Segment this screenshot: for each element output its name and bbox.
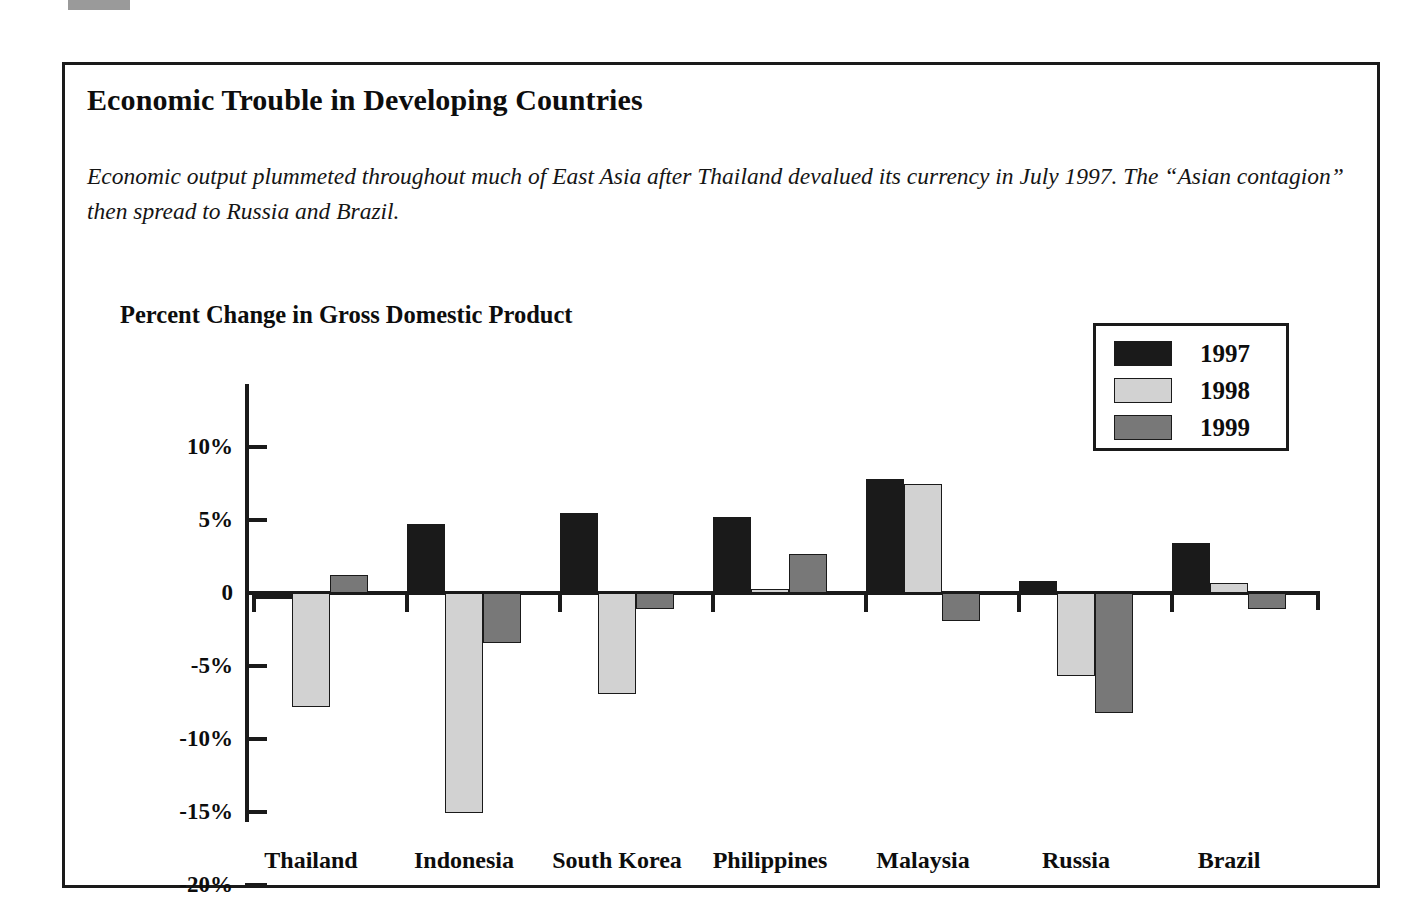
bar-south-korea-1999 xyxy=(636,593,674,609)
figure-frame: Economic Trouble in Developing Countries… xyxy=(62,62,1380,888)
bar-indonesia-1997 xyxy=(407,524,445,593)
y-axis-line xyxy=(245,384,249,822)
category-label-indonesia: Indonesia xyxy=(414,847,514,874)
figure-subtitle: Economic output plummeted throughout muc… xyxy=(87,159,1359,228)
category-label-malaysia: Malaysia xyxy=(876,847,969,874)
legend-label-1997: 1997 xyxy=(1200,341,1250,366)
bar-malaysia-1998 xyxy=(904,484,942,594)
y-axis-label-slot: 5% xyxy=(105,520,233,521)
bar-thailand-1997 xyxy=(254,593,292,599)
category-label-south-korea: South Korea xyxy=(552,847,682,874)
bar-russia-1998 xyxy=(1057,593,1095,676)
bar-thailand-1998 xyxy=(292,593,330,707)
y-axis-tick xyxy=(245,883,267,887)
y-axis-tick xyxy=(245,737,267,741)
bar-brazil-1997 xyxy=(1172,543,1210,593)
bar-thailand-1999 xyxy=(330,575,368,593)
legend-swatch-1997 xyxy=(1114,341,1172,366)
bar-russia-1999 xyxy=(1095,593,1133,713)
y-axis-tick xyxy=(245,445,267,449)
group-separator-tick xyxy=(558,595,562,612)
group-separator-tick xyxy=(1017,595,1021,612)
bar-south-korea-1997 xyxy=(560,513,598,593)
scan-edge-artifact xyxy=(68,0,130,10)
group-separator-tick xyxy=(711,595,715,612)
y-axis-tick-label: 0 xyxy=(113,581,233,604)
y-axis-label-slot: -20% xyxy=(105,885,233,886)
group-separator-tick xyxy=(1170,595,1174,612)
bar-philippines-1997 xyxy=(713,517,751,593)
category-label-brazil: Brazil xyxy=(1198,847,1261,874)
bar-indonesia-1999 xyxy=(483,593,521,643)
chart-heading: Percent Change in Gross Domestic Product xyxy=(120,301,573,329)
group-separator-tick xyxy=(405,595,409,612)
y-axis-label-slot: 10% xyxy=(105,447,233,448)
bar-philippines-1999 xyxy=(789,554,827,593)
y-axis-tick xyxy=(245,518,267,522)
y-axis-tick-label: -5% xyxy=(113,654,233,677)
bar-russia-1997 xyxy=(1019,581,1057,593)
y-axis-label-slot: -15% xyxy=(105,812,233,813)
y-axis-tick-label: -10% xyxy=(113,727,233,750)
axis-end-tick xyxy=(1316,591,1320,610)
y-axis-tick-label: -15% xyxy=(113,800,233,823)
category-label-thailand: Thailand xyxy=(264,847,357,874)
bar-south-korea-1998 xyxy=(598,593,636,694)
y-axis-tick xyxy=(245,810,267,814)
bar-brazil-1998 xyxy=(1210,583,1248,593)
bar-malaysia-1997 xyxy=(866,479,904,593)
y-axis-tick-label: 5% xyxy=(113,508,233,531)
bar-indonesia-1998 xyxy=(445,593,483,813)
figure-title: Economic Trouble in Developing Countries xyxy=(87,83,643,117)
group-separator-tick xyxy=(864,595,868,612)
y-axis-tick xyxy=(245,664,267,668)
bar-philippines-1998 xyxy=(751,589,789,593)
y-axis-tick-label: 10% xyxy=(113,435,233,458)
category-label-russia: Russia xyxy=(1042,847,1110,874)
y-axis-label-slot: -5% xyxy=(105,666,233,667)
y-axis-label-slot: 0 xyxy=(105,593,233,594)
y-axis-label-slot: -10% xyxy=(105,739,233,740)
bar-brazil-1999 xyxy=(1248,593,1286,609)
bar-malaysia-1999 xyxy=(942,593,980,621)
chart-plot-area: 10%5%0-5%-10%-15%-20% ThailandIndonesiaS… xyxy=(105,365,1335,835)
category-label-philippines: Philippines xyxy=(713,847,828,874)
y-axis-tick-label: -20% xyxy=(113,873,233,896)
